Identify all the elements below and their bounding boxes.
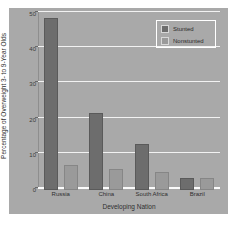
legend-swatch-stunted-icon — [161, 25, 169, 33]
bar-south-africa-nonstunted — [155, 172, 169, 190]
legend-swatch-nonstunted-icon — [161, 37, 169, 45]
legend-item-nonstunted: Nonstunted — [161, 36, 211, 46]
chart-panel: 01020304050 Percentage of Overweight 3- … — [9, 8, 228, 214]
x-axis-tick-label: China — [98, 191, 114, 197]
y-axis-tick — [35, 81, 38, 82]
bar-south-africa-stunted — [135, 144, 149, 190]
chart-legend: Stunted Nonstunted — [156, 20, 216, 48]
plot-area: RussiaChinaSouth AfricaBrazil Developing… — [38, 11, 220, 190]
bar-brazil-stunted — [180, 178, 194, 190]
y-axis-tick — [35, 152, 38, 153]
y-axis-tick — [35, 187, 38, 188]
legend-item-stunted: Stunted — [161, 24, 211, 34]
legend-label-stunted: Stunted — [173, 26, 194, 32]
y-axis-tick — [35, 11, 38, 12]
gridline — [38, 117, 220, 118]
y-axis-tick-labels: 01020304050 — [26, 11, 36, 187]
x-axis-tick-label: Russia — [52, 191, 70, 197]
bar-china-nonstunted — [109, 169, 123, 190]
y-axis-line — [38, 11, 39, 187]
y-axis-tick — [35, 46, 38, 47]
chart-figure: 01020304050 Percentage of Overweight 3- … — [0, 0, 249, 233]
bar-russia-stunted — [44, 18, 58, 190]
gridline — [38, 11, 220, 12]
gridline — [38, 81, 220, 82]
y-axis-title: Percentage of Overweight 3- to 9-Year Ol… — [0, 33, 7, 159]
bar-china-stunted — [89, 113, 103, 190]
y-axis-tick — [35, 117, 38, 118]
x-axis-title: Developing Nation — [38, 203, 220, 210]
x-axis-tick-label: Brazil — [190, 191, 205, 197]
gridline — [38, 152, 220, 153]
x-axis-tick-label: South Africa — [136, 191, 168, 197]
bar-brazil-nonstunted — [200, 178, 214, 190]
bar-russia-nonstunted — [64, 165, 78, 190]
legend-label-nonstunted: Nonstunted — [173, 38, 204, 44]
